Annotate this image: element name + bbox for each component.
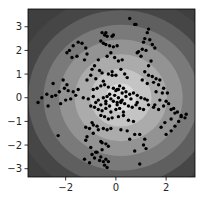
data-point <box>153 46 156 49</box>
data-point <box>143 137 146 140</box>
data-point <box>119 100 122 103</box>
plot-area <box>12 0 203 200</box>
data-point <box>148 38 151 41</box>
data-point <box>92 132 95 135</box>
data-point <box>99 155 102 158</box>
data-point <box>104 158 107 161</box>
data-point <box>95 124 98 127</box>
data-point <box>77 88 80 91</box>
data-point <box>89 74 92 77</box>
data-point <box>94 150 97 153</box>
data-point <box>162 104 165 107</box>
data-point <box>88 161 91 164</box>
data-point <box>138 162 141 165</box>
data-point <box>112 100 115 103</box>
data-point <box>124 95 127 98</box>
data-point <box>144 147 147 150</box>
x-tick-label: 2 <box>163 182 169 193</box>
data-point <box>143 70 146 73</box>
y-tick-label: 3 <box>16 21 22 32</box>
data-point <box>134 23 137 26</box>
data-point <box>97 108 100 111</box>
data-point <box>122 87 125 90</box>
data-point <box>147 74 150 77</box>
data-point <box>157 83 160 86</box>
data-point <box>98 69 101 72</box>
data-point <box>139 96 142 99</box>
data-point <box>173 124 176 127</box>
data-point <box>61 78 64 81</box>
data-point <box>154 90 157 93</box>
data-point <box>83 158 86 161</box>
data-point <box>90 68 93 71</box>
data-point <box>115 101 118 104</box>
data-point <box>102 96 105 99</box>
data-point <box>119 68 122 71</box>
data-point <box>94 101 97 104</box>
x-axis: −202 <box>58 177 169 193</box>
data-point <box>113 94 116 97</box>
data-point <box>90 153 93 156</box>
data-point <box>117 59 120 62</box>
data-point <box>93 105 96 108</box>
data-point <box>163 121 166 124</box>
data-point <box>158 78 161 81</box>
data-point <box>115 44 118 47</box>
data-point <box>105 35 108 38</box>
data-point <box>82 96 85 99</box>
data-point <box>109 110 112 113</box>
data-point <box>84 139 87 142</box>
data-point <box>122 110 125 113</box>
data-point <box>136 51 139 54</box>
data-point <box>133 133 136 136</box>
data-point <box>109 127 112 130</box>
data-point <box>107 85 110 88</box>
data-point <box>104 107 107 110</box>
y-tick-label: −2 <box>7 140 22 151</box>
data-point <box>88 127 91 130</box>
data-point <box>102 127 105 130</box>
data-point <box>162 87 165 90</box>
data-point <box>92 95 95 98</box>
data-point <box>104 31 107 34</box>
data-point <box>147 103 150 106</box>
data-point <box>77 40 80 43</box>
data-point <box>84 126 87 129</box>
data-point <box>123 102 126 105</box>
data-point <box>173 111 176 114</box>
data-point <box>100 31 103 34</box>
data-point <box>138 107 141 110</box>
data-point <box>85 135 88 138</box>
data-point <box>65 83 68 86</box>
data-point <box>142 40 145 43</box>
data-point <box>50 95 53 98</box>
data-point <box>161 91 164 94</box>
data-point <box>149 59 152 62</box>
data-point <box>46 104 49 107</box>
data-point <box>167 102 170 105</box>
data-point <box>164 100 167 103</box>
data-point <box>185 113 188 116</box>
data-point <box>127 104 130 107</box>
data-point <box>151 43 154 46</box>
data-point <box>66 89 69 92</box>
data-point <box>131 105 134 108</box>
y-axis: 3210−1−2−3 <box>7 21 28 174</box>
data-point <box>85 52 88 55</box>
data-point <box>97 98 100 101</box>
data-point <box>113 56 116 59</box>
data-point <box>179 115 182 118</box>
data-point <box>105 166 108 169</box>
data-point <box>89 146 92 149</box>
data-point <box>146 31 149 34</box>
data-point <box>99 140 102 143</box>
data-point <box>99 39 102 42</box>
data-point <box>117 96 120 99</box>
y-tick-label: 2 <box>16 45 22 56</box>
data-point <box>123 72 126 75</box>
data-point <box>144 49 147 52</box>
data-point <box>112 33 115 36</box>
data-point <box>51 82 54 85</box>
data-point <box>124 90 127 93</box>
data-point <box>100 71 103 74</box>
